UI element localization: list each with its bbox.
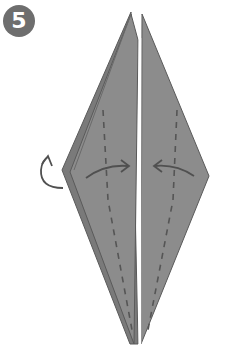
turn-over-arrow-icon <box>41 156 63 188</box>
left-panel <box>70 14 138 344</box>
origami-diagram <box>0 0 229 354</box>
right-panel <box>141 14 209 344</box>
